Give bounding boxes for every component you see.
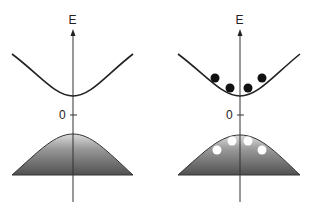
zero-label: 0 [226,108,233,122]
band-diagram: E 0 E 0 [0,0,309,211]
electron-icon [211,74,220,83]
hole-icon [258,146,267,155]
hole-icon [213,146,222,155]
left-panel: E 0 [12,13,133,202]
electron-icon [226,84,235,93]
arrow-head-icon [71,29,76,36]
valence-band [178,135,300,175]
electron-icon [258,74,267,83]
arrow-head-icon [238,29,243,36]
energy-axis-label: E [236,13,244,27]
hole-icon [228,137,237,146]
electron-icon [244,84,253,93]
hole-icon [244,137,253,146]
zero-label: 0 [59,108,66,122]
conduction-band [178,54,300,96]
right-panel: E 0 [178,13,300,202]
energy-axis-label: E [69,13,77,27]
